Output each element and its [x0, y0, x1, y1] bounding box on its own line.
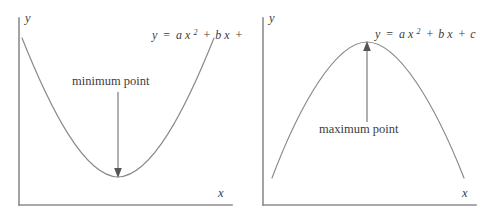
equation-term1-coef: a — [176, 28, 182, 42]
equation-term2-coef: b — [215, 28, 221, 42]
equation-term1-coef: a — [399, 27, 405, 41]
equation-term1-var: x — [184, 28, 191, 42]
minimum-point-label: minimum point — [72, 74, 150, 88]
equation-equals: = — [163, 28, 170, 42]
equation-plus-1: + — [426, 27, 433, 41]
equation-label-minimum: y = a x 2 + b x + c — [151, 24, 244, 42]
maximum-point-label: maximum point — [319, 122, 399, 136]
equation-term3: c — [470, 27, 476, 41]
equation-equals: = — [386, 27, 393, 41]
equation-term1-exponent: 2 — [416, 27, 420, 36]
y-axis-label: y — [23, 11, 31, 25]
equation-lhs: y — [151, 28, 158, 42]
minimum-point-panel: y x minimum point y = a x 2 + b x + c — [0, 0, 244, 221]
equation-term2-var: x — [446, 27, 453, 41]
equation-term2-coef: b — [438, 27, 444, 41]
equation-plus-2: + — [459, 27, 466, 41]
y-axis-label: y — [267, 11, 275, 25]
equation-plus-1: + — [203, 28, 210, 42]
equation-term1-exponent: 2 — [193, 28, 197, 37]
equation-term2-var: x — [223, 28, 230, 42]
equation-label-maximum: y = a x 2 + b x + c — [374, 23, 476, 41]
quadratic-graphs-figure: y x minimum point y = a x 2 + b x + c — [0, 0, 488, 221]
equation-plus-2: + — [236, 28, 243, 42]
x-axis-label: x — [217, 186, 224, 200]
x-axis-label: x — [461, 186, 468, 200]
equation-term1-var: x — [407, 27, 414, 41]
maximum-point-panel: y x maximum point y = a x 2 + b x + c — [244, 0, 488, 221]
parabola-curve-downward — [272, 42, 464, 178]
equation-lhs: y — [374, 27, 381, 41]
